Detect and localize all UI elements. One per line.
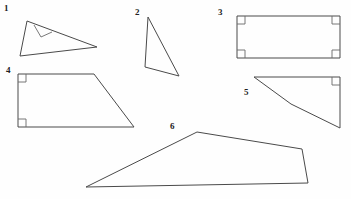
figure-label-6: 6 bbox=[170, 122, 175, 131]
shape-outline-2[interactable] bbox=[145, 17, 179, 76]
worksheet-canvas: 1 2 3 4 5 6 bbox=[0, 0, 351, 199]
figure-group-5[interactable] bbox=[254, 77, 340, 128]
right-angle-marker-4b bbox=[18, 119, 26, 127]
right-angle-marker-5a bbox=[332, 77, 340, 85]
shape-outline-3[interactable] bbox=[237, 16, 340, 58]
shape-outline-1[interactable] bbox=[20, 21, 97, 56]
figure-label-1: 1 bbox=[4, 4, 9, 13]
right-angle-marker-4a bbox=[18, 74, 26, 82]
figure-label-2: 2 bbox=[135, 8, 140, 17]
shapes-svg-layer bbox=[0, 0, 351, 199]
right-angle-marker-3b bbox=[332, 16, 340, 24]
shape-outline-4[interactable] bbox=[18, 74, 134, 127]
right-angle-marker-3a bbox=[237, 16, 245, 24]
shape-outline-6[interactable] bbox=[86, 132, 308, 187]
shape-outline-5[interactable] bbox=[254, 77, 340, 128]
right-angle-marker-3d bbox=[332, 50, 340, 58]
figure-group-4[interactable] bbox=[18, 74, 134, 127]
figure-label-4: 4 bbox=[6, 66, 11, 75]
right-angle-marker-3c bbox=[237, 50, 245, 58]
figure-group-1[interactable] bbox=[20, 21, 97, 56]
figure-group-2[interactable] bbox=[145, 17, 179, 76]
figure-group-3[interactable] bbox=[237, 16, 340, 58]
figure-label-5: 5 bbox=[244, 88, 249, 97]
figure-group-6[interactable] bbox=[86, 132, 308, 187]
figure-label-3: 3 bbox=[218, 8, 223, 17]
